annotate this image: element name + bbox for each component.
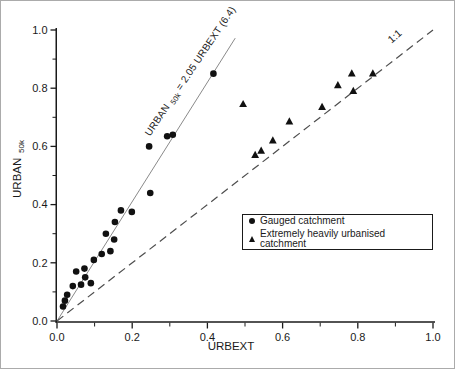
filled-circle-marker-icon [249, 218, 255, 224]
data-point-circle [147, 190, 154, 197]
data-point-circle [146, 143, 153, 150]
data-point-triangle [334, 81, 342, 88]
x-axis-label: URBEXT [208, 340, 255, 352]
one-to-one-label: 1:1 [385, 27, 404, 46]
regression-equation-label: URBAN 50k = 2.05 URBEXT (6.4) [143, 4, 240, 139]
data-point-triangle [257, 146, 265, 153]
y-tick-label: 0.6 [32, 140, 47, 152]
x-tick-label: 1.0 [425, 331, 440, 343]
legend-item-urbanised-catchment: Extremely heavily urbanised catchment [249, 229, 432, 249]
legend-box: Gauged catchment Extremely heavily urban… [242, 214, 433, 250]
data-point-triangle [348, 69, 356, 76]
x-tick-label: 0.6 [275, 331, 290, 343]
x-tick-label: 0.2 [125, 331, 140, 343]
data-point-circle [111, 236, 118, 243]
y-tick-label: 0.0 [32, 315, 47, 327]
y-tick-label: 0.4 [32, 198, 47, 210]
data-point-triangle [269, 136, 277, 143]
data-point-circle [98, 251, 105, 258]
data-point-circle [81, 265, 88, 272]
data-point-circle [82, 274, 89, 281]
data-point-triangle [318, 103, 326, 110]
data-point-circle [112, 219, 119, 226]
identity-line [57, 30, 433, 321]
data-point-circle [164, 133, 171, 140]
data-point-triangle [239, 100, 247, 107]
data-point-circle [170, 131, 177, 138]
data-point-circle [91, 257, 98, 264]
filled-triangle-marker-icon [249, 236, 255, 242]
x-tick-label: 0.8 [350, 331, 365, 343]
data-point-circle [129, 209, 136, 216]
data-point-circle [210, 70, 217, 77]
y-tick-label: 0.2 [32, 257, 47, 269]
data-point-circle [118, 207, 125, 214]
data-point-triangle [251, 151, 259, 158]
data-point-circle [62, 297, 69, 304]
data-point-circle [69, 283, 76, 290]
y-tick-label: 1.0 [32, 24, 47, 36]
data-point-triangle [285, 117, 293, 124]
legend-label: Gauged catchment [260, 216, 345, 226]
data-point-circle [88, 280, 95, 287]
data-point-circle [107, 248, 114, 255]
y-axis-label: URBAN 50k [11, 139, 26, 198]
scatter-figure: 0.00.20.40.60.81.00.00.20.40.60.81.0 URB… [0, 0, 455, 369]
legend-label: Extremely heavily urbanised catchment [260, 229, 432, 249]
y-tick-label: 0.8 [32, 82, 47, 94]
data-point-triangle [349, 87, 357, 94]
data-point-circle [60, 303, 67, 310]
data-point-circle [103, 230, 110, 237]
data-point-circle [64, 292, 71, 299]
data-point-circle [78, 281, 85, 288]
legend-item-gauged-catchment: Gauged catchment [249, 216, 432, 226]
x-tick-label: 0.0 [49, 331, 64, 343]
data-point-circle [73, 268, 80, 275]
chart-canvas: 0.00.20.40.60.81.00.00.20.40.60.81.0 URB… [1, 1, 455, 369]
data-point-triangle [369, 69, 377, 76]
